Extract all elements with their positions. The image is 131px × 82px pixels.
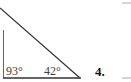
problem-number: 4. [95,65,105,78]
angle-label-right: 42° [44,65,61,77]
angle-label-left: 93° [6,65,23,77]
